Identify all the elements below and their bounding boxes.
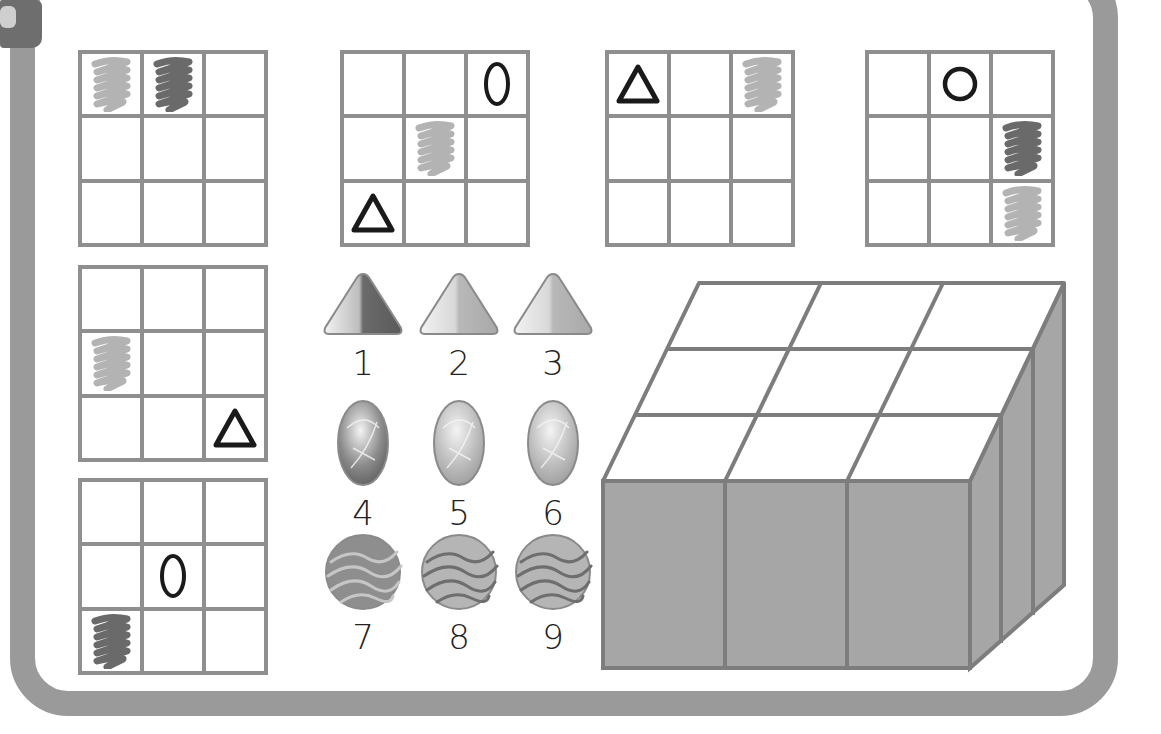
grid-2	[340, 50, 530, 247]
grid-cell[interactable]	[144, 398, 202, 458]
grid-cell[interactable]	[82, 482, 140, 542]
grid-cell[interactable]	[206, 118, 264, 178]
piece-1[interactable]: 1	[318, 270, 408, 380]
grid-cell[interactable]	[82, 54, 140, 114]
oval-gem-piece-icon	[335, 398, 391, 492]
grid-cell[interactable]	[609, 54, 667, 114]
grid-cell[interactable]	[869, 118, 927, 178]
triangle-piece-icon	[417, 270, 501, 342]
piece-6[interactable]: 6	[508, 398, 598, 530]
grid-cell[interactable]	[206, 398, 264, 458]
triangle-icon	[615, 63, 661, 105]
corner-tag-decoration	[0, 0, 42, 48]
grid-cell[interactable]	[206, 183, 264, 243]
wavy-ball-piece-icon	[323, 532, 403, 616]
grid-4	[865, 50, 1055, 247]
zero-icon	[158, 551, 188, 601]
grid-cell[interactable]	[144, 54, 202, 114]
grid-cell[interactable]	[671, 54, 729, 114]
scribble-light-icon	[89, 335, 133, 391]
grid-cell[interactable]	[733, 118, 791, 178]
circle-icon	[940, 64, 980, 104]
grid-3	[605, 50, 795, 247]
grid-cell[interactable]	[144, 118, 202, 178]
scribble-dark-icon	[1000, 120, 1044, 176]
tag-strip	[0, 6, 16, 28]
piece-4[interactable]: 4	[318, 398, 408, 530]
grid-cell[interactable]	[82, 183, 140, 243]
grid-cell[interactable]	[206, 269, 264, 329]
grid-cell[interactable]	[733, 183, 791, 243]
grid-cell[interactable]	[82, 611, 140, 671]
triangle-icon	[350, 192, 396, 234]
piece-number-label: 8	[448, 620, 470, 654]
grid-cell[interactable]	[993, 118, 1051, 178]
piece-number-label: 7	[352, 620, 374, 654]
piece-number-label: 1	[352, 346, 374, 380]
grid-cell[interactable]	[931, 118, 989, 178]
grid-5	[78, 265, 268, 462]
grid-1	[78, 50, 268, 247]
piece-5[interactable]: 5	[414, 398, 504, 530]
grid-cell[interactable]	[144, 546, 202, 606]
grid-cell[interactable]	[144, 333, 202, 393]
grid-cell[interactable]	[144, 482, 202, 542]
wavy-ball-piece-icon	[419, 532, 499, 616]
grid-cell[interactable]	[206, 54, 264, 114]
scribble-light-icon	[413, 120, 457, 176]
piece-8[interactable]: 8	[414, 532, 504, 654]
piece-palette: 1 2 3 4 5 6 7 8 9	[318, 270, 588, 680]
triangle-icon	[212, 407, 258, 449]
grid-cell[interactable]	[468, 183, 526, 243]
grid-cell[interactable]	[344, 54, 402, 114]
grid-cell[interactable]	[406, 54, 464, 114]
grid-cell[interactable]	[869, 183, 927, 243]
grid-cell[interactable]	[733, 54, 791, 114]
zero-icon	[482, 59, 512, 109]
grid-cell[interactable]	[671, 118, 729, 178]
grid-cell[interactable]	[931, 54, 989, 114]
grid-cell[interactable]	[671, 183, 729, 243]
box-3d-icon	[598, 275, 1078, 675]
piece-2[interactable]: 2	[414, 270, 504, 380]
triangle-piece-icon	[321, 270, 405, 342]
grid-cell[interactable]	[406, 118, 464, 178]
piece-number-label: 2	[448, 346, 470, 380]
grid-cell[interactable]	[82, 333, 140, 393]
grid-cell[interactable]	[144, 611, 202, 671]
grid-cell[interactable]	[609, 183, 667, 243]
piece-7[interactable]: 7	[318, 532, 408, 654]
scribble-light-icon	[740, 56, 784, 112]
grid-cell[interactable]	[206, 333, 264, 393]
piece-number-label: 6	[542, 496, 564, 530]
grid-cell[interactable]	[468, 118, 526, 178]
scribble-light-icon	[1000, 185, 1044, 241]
grid-cell[interactable]	[206, 611, 264, 671]
piece-number-label: 3	[542, 346, 564, 380]
grid-cell[interactable]	[406, 183, 464, 243]
grid-cell[interactable]	[144, 269, 202, 329]
grid-cell[interactable]	[931, 183, 989, 243]
target-box	[598, 275, 1078, 675]
grid-cell[interactable]	[344, 118, 402, 178]
grid-cell[interactable]	[869, 54, 927, 114]
grid-cell[interactable]	[609, 118, 667, 178]
grid-cell[interactable]	[993, 54, 1051, 114]
wavy-ball-piece-icon	[513, 532, 593, 616]
grid-cell[interactable]	[144, 183, 202, 243]
grid-cell[interactable]	[468, 54, 526, 114]
grid-cell[interactable]	[82, 118, 140, 178]
grid-cell[interactable]	[206, 482, 264, 542]
grid-cell[interactable]	[82, 546, 140, 606]
triangle-piece-icon	[511, 270, 595, 342]
grid-cell[interactable]	[206, 546, 264, 606]
grid-cell[interactable]	[82, 269, 140, 329]
grid-cell[interactable]	[344, 183, 402, 243]
piece-number-label: 5	[448, 496, 470, 530]
piece-9[interactable]: 9	[508, 532, 598, 654]
oval-gem-piece-icon	[431, 398, 487, 492]
piece-3[interactable]: 3	[508, 270, 598, 380]
grid-cell[interactable]	[82, 398, 140, 458]
piece-number-label: 9	[542, 620, 564, 654]
grid-cell[interactable]	[993, 183, 1051, 243]
